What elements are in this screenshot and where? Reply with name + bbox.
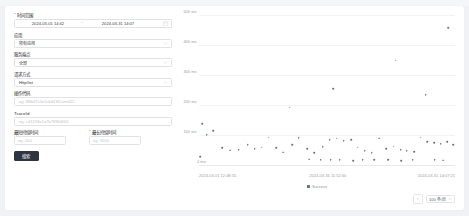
chart-data-point[interactable] bbox=[452, 144, 454, 146]
chevron-down-icon bbox=[163, 80, 168, 85]
main-card: * 时间范围 2024-03-01 14:42 ~ 2024-03-31 14:… bbox=[5, 6, 464, 210]
chart-data-point[interactable] bbox=[339, 159, 341, 161]
chart-data-point[interactable] bbox=[291, 144, 293, 146]
field-traceid: TraceId eg. c41233e1a7b78364061 bbox=[14, 110, 172, 126]
chart-data-point[interactable] bbox=[206, 134, 208, 136]
chart-data-point[interactable] bbox=[247, 144, 249, 146]
chart-data-point[interactable] bbox=[268, 136, 270, 138]
date-range-input[interactable]: 2024-03-01 14:42 ~ 2024-03-31 14:07 bbox=[14, 19, 172, 28]
date-range-end[interactable]: 2024-03-31 14:07 bbox=[87, 21, 149, 26]
chart-data-point[interactable] bbox=[420, 136, 422, 138]
chart-data-point[interactable] bbox=[213, 130, 215, 132]
max-duration-placeholder: eg. 5000 bbox=[90, 138, 109, 143]
chart-data-point[interactable] bbox=[254, 148, 256, 150]
chart-data-point[interactable] bbox=[201, 123, 203, 125]
chart-data-point[interactable] bbox=[412, 159, 414, 161]
chevron-left-icon bbox=[416, 197, 420, 201]
chart-data-point[interactable] bbox=[371, 152, 373, 154]
y-axis-tick-label: 100 ms bbox=[183, 129, 196, 134]
request-method-select[interactable]: HttpGet bbox=[14, 78, 172, 87]
chart-data-point[interactable] bbox=[329, 139, 331, 141]
chart-data-point[interactable] bbox=[351, 139, 353, 141]
latency-scatter-chart: 0 ms100 ms200 ms300 ms400 ms500 ms 2024-… bbox=[177, 12, 457, 192]
chart-data-point[interactable] bbox=[352, 160, 354, 162]
chart-data-point[interactable] bbox=[283, 151, 285, 153]
field-application: 应用 所有应用 bbox=[14, 32, 172, 48]
chart-gridline bbox=[199, 45, 455, 46]
min-duration-input[interactable]: eg. 100 bbox=[14, 136, 66, 145]
chart-data-point[interactable] bbox=[387, 159, 389, 161]
chart-gridline bbox=[199, 105, 455, 106]
legend-swatch bbox=[307, 185, 310, 188]
chart-data-point[interactable] bbox=[336, 138, 338, 140]
chevron-down-icon bbox=[163, 60, 168, 65]
chart-data-point[interactable] bbox=[448, 27, 450, 29]
chart-data-point[interactable] bbox=[261, 146, 263, 148]
chart-data-point[interactable] bbox=[374, 159, 376, 161]
chart-data-point[interactable] bbox=[386, 148, 388, 150]
chart-data-point[interactable] bbox=[447, 141, 449, 143]
chart-gridline bbox=[199, 135, 455, 136]
chart-data-point[interactable] bbox=[199, 156, 201, 158]
traceid-input[interactable]: eg. c41233e1a7b78364061 bbox=[14, 117, 172, 126]
chart-data-point[interactable] bbox=[427, 141, 429, 143]
chart-data-point[interactable] bbox=[308, 159, 310, 161]
max-duration-label: 最长持续时间 bbox=[92, 129, 117, 136]
chevron-down-icon bbox=[448, 197, 452, 201]
chart-data-point[interactable] bbox=[433, 142, 435, 144]
chart-data-point[interactable] bbox=[406, 150, 408, 152]
chart-data-point[interactable] bbox=[440, 143, 442, 145]
chart-data-point[interactable] bbox=[378, 138, 380, 140]
chart-data-point[interactable] bbox=[320, 159, 322, 161]
traceid-label: TraceId bbox=[14, 110, 172, 117]
date-range-start[interactable]: 2024-03-01 14:42 bbox=[15, 21, 77, 26]
application-select[interactable]: 所有应用 bbox=[14, 39, 172, 48]
chart-data-point[interactable] bbox=[362, 159, 364, 161]
required-asterisk: * bbox=[89, 130, 91, 134]
page-size-select[interactable]: 100 条/页 bbox=[426, 195, 455, 203]
chart-data-point[interactable] bbox=[400, 149, 402, 151]
duration-row: 最短持续时间 eg. 100 * 最长持续时间 eg. 5000 bbox=[14, 129, 172, 145]
chart-data-point[interactable] bbox=[298, 137, 300, 139]
chart-data-point[interactable] bbox=[330, 159, 332, 161]
max-duration-input[interactable]: eg. 5000 bbox=[89, 136, 141, 145]
app-root: * 时间范围 2024-03-01 14:42 ~ 2024-03-31 14:… bbox=[0, 0, 469, 216]
field-max-duration: * 最长持续时间 eg. 5000 bbox=[89, 129, 141, 145]
chart-data-point[interactable] bbox=[413, 151, 415, 153]
endpoint-select[interactable]: 全部 bbox=[14, 58, 172, 67]
chart-data-point[interactable] bbox=[238, 149, 240, 151]
chart-data-point[interactable] bbox=[400, 160, 402, 162]
chart-data-point[interactable] bbox=[221, 147, 223, 149]
pagination-prev-button[interactable] bbox=[413, 194, 423, 204]
required-asterisk: * bbox=[14, 13, 16, 17]
request-method-label: 请求方式 bbox=[14, 71, 172, 78]
min-duration-label: 最短持续时间 bbox=[14, 129, 66, 136]
chart-data-point[interactable] bbox=[275, 147, 277, 149]
chart-data-point[interactable] bbox=[434, 159, 436, 161]
chart-legend: Success bbox=[177, 184, 457, 189]
chart-data-point[interactable] bbox=[343, 140, 345, 142]
chart-data-point[interactable] bbox=[425, 94, 427, 96]
chart-gridline bbox=[199, 75, 455, 76]
chart-data-point[interactable] bbox=[333, 88, 335, 90]
max-duration-label-row: * 最长持续时间 bbox=[89, 129, 141, 136]
search-button[interactable]: 搜索 bbox=[14, 151, 39, 161]
chart-data-point[interactable] bbox=[289, 106, 291, 108]
field-min-duration: 最短持续时间 eg. 100 bbox=[14, 129, 66, 145]
chart-data-point[interactable] bbox=[395, 60, 397, 62]
chart-data-point[interactable] bbox=[322, 146, 324, 148]
calendar-icon bbox=[163, 21, 168, 26]
request-method-value: HttpGet bbox=[15, 80, 33, 85]
chart-data-point[interactable] bbox=[306, 148, 308, 150]
field-request-method: 请求方式 HttpGet bbox=[14, 71, 172, 87]
chart-data-point[interactable] bbox=[357, 147, 359, 149]
endpoint-label: 服务端点 bbox=[14, 51, 172, 58]
chart-data-point[interactable] bbox=[443, 160, 445, 162]
chart-data-point[interactable] bbox=[364, 150, 366, 152]
chart-data-point[interactable] bbox=[393, 145, 395, 147]
operation-code-input[interactable]: eg. 88b4154e1cbd13f1aee452 bbox=[14, 97, 172, 106]
chart-plot-area[interactable]: 0 ms100 ms200 ms300 ms400 ms500 ms bbox=[199, 16, 455, 166]
chart-data-point[interactable] bbox=[313, 152, 315, 154]
field-endpoint: 服务端点 全部 bbox=[14, 51, 172, 67]
chart-data-point[interactable] bbox=[230, 150, 232, 152]
